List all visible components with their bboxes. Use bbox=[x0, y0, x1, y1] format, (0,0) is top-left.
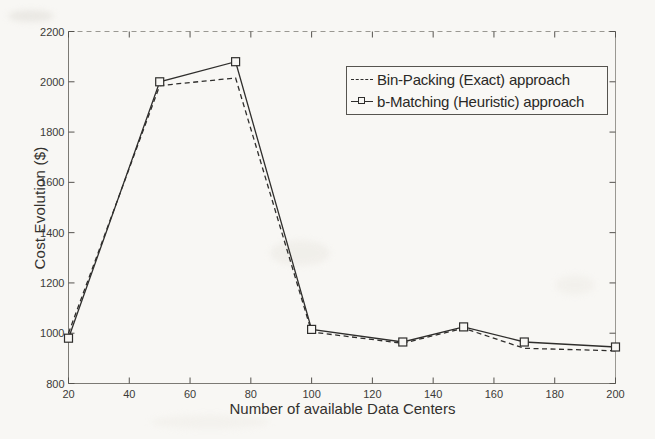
legend-label: Bin-Packing (Exact) approach bbox=[377, 71, 570, 88]
legend-item-bin-packing: Bin-Packing (Exact) approach bbox=[351, 69, 603, 90]
svg-text:1000: 1000 bbox=[40, 327, 64, 339]
svg-text:40: 40 bbox=[123, 388, 135, 400]
svg-text:60: 60 bbox=[184, 388, 196, 400]
svg-text:160: 160 bbox=[485, 388, 503, 400]
svg-text:800: 800 bbox=[46, 378, 64, 390]
dashed-line-sample-icon bbox=[351, 75, 373, 84]
svg-text:2200: 2200 bbox=[40, 26, 64, 38]
square-marker-line-sample-icon bbox=[351, 97, 373, 106]
x-axis-title: Number of available Data Centers bbox=[69, 400, 616, 417]
svg-text:100: 100 bbox=[302, 388, 320, 400]
legend-item-b-matching: b-Matching (Heuristic) approach bbox=[351, 91, 603, 112]
legend-label: b-Matching (Heuristic) approach bbox=[377, 93, 584, 110]
y-axis-title: Cost Evolution ($) bbox=[31, 109, 49, 307]
svg-text:140: 140 bbox=[424, 388, 442, 400]
svg-text:200: 200 bbox=[606, 388, 624, 400]
legend: Bin-Packing (Exact) approach b-Matching … bbox=[346, 66, 608, 115]
svg-text:80: 80 bbox=[245, 388, 257, 400]
svg-text:180: 180 bbox=[546, 388, 564, 400]
svg-text:2000: 2000 bbox=[40, 76, 64, 88]
scanned-figure: 2040608010012014016018020080010001200140… bbox=[0, 0, 655, 439]
svg-text:120: 120 bbox=[363, 388, 381, 400]
